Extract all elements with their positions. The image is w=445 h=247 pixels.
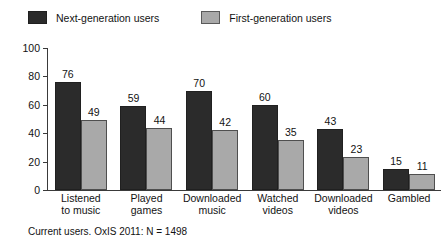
- x-axis-labels: Listenedto musicPlayedgamesDownloadedmus…: [48, 193, 442, 216]
- legend-item-first-generation-users: First-generation users: [201, 11, 331, 24]
- bar-groups: 764959447042603543231511: [48, 48, 441, 190]
- x-axis-label-line: videos: [245, 205, 311, 217]
- x-axis-label-line: to music: [48, 205, 114, 217]
- bar-value-label: 49: [88, 106, 100, 118]
- y-axis-tick: [43, 48, 47, 49]
- y-axis-tick-label: 0: [34, 184, 40, 196]
- x-axis-line: [47, 190, 441, 191]
- bar-group: 1511: [376, 48, 442, 190]
- bar-value-label: 35: [285, 126, 297, 138]
- plot-area: 020406080100 764959447042603543231511: [47, 48, 441, 190]
- chart-footnote: Current users. OxIS 2011: N = 1498: [28, 226, 187, 237]
- y-axis-tick-label: 20: [28, 156, 40, 168]
- bar: 43: [317, 129, 343, 190]
- x-axis-label: Watchedvideos: [245, 193, 311, 216]
- bar-value-label: 59: [128, 92, 140, 104]
- y-axis-tick: [43, 105, 47, 106]
- light-swatch-icon: [201, 11, 220, 24]
- x-axis-label-line: music: [179, 205, 245, 217]
- bar: 70: [186, 91, 212, 190]
- legend-label: Next-generation users: [56, 12, 159, 24]
- bar-value-label: 42: [219, 116, 231, 128]
- bar-chart: Next-generation users First-generation u…: [0, 0, 445, 247]
- y-axis-tick: [43, 162, 47, 163]
- x-axis-label-line: Downloaded: [179, 193, 245, 205]
- x-axis-label-line: Watched: [245, 193, 311, 205]
- y-axis-tick: [43, 133, 47, 134]
- x-axis-label: Listenedto music: [48, 193, 114, 216]
- bar: 23: [343, 157, 369, 190]
- bar-value-label: 11: [417, 160, 428, 172]
- y-axis-tick-label: 60: [28, 99, 40, 111]
- legend-label: First-generation users: [229, 12, 331, 24]
- y-axis-tick-label: 100: [22, 42, 40, 54]
- chart-legend: Next-generation users First-generation u…: [28, 11, 331, 24]
- bar-value-label: 76: [62, 68, 74, 80]
- x-axis-label-line: Played: [114, 193, 180, 205]
- bar-group: 6035: [245, 48, 311, 190]
- bar: 44: [146, 128, 172, 190]
- y-axis-tick-label: 40: [28, 127, 40, 139]
- bar-value-label: 43: [325, 115, 337, 127]
- bar-value-label: 60: [259, 91, 271, 103]
- y-axis-tick: [43, 76, 47, 77]
- bar-group: 5944: [114, 48, 180, 190]
- legend-item-next-generation-users: Next-generation users: [28, 11, 159, 24]
- x-axis-label: Gambled: [376, 193, 442, 216]
- y-axis-tick: [43, 190, 47, 191]
- bar: 15: [383, 169, 409, 190]
- x-axis-label: Downloadedvideos: [311, 193, 377, 216]
- bar: 76: [55, 82, 81, 190]
- bar: 11: [409, 174, 435, 190]
- bar: 60: [252, 105, 278, 190]
- x-axis-label-line: Downloaded: [311, 193, 377, 205]
- dark-swatch-icon: [28, 11, 47, 24]
- bar-group: 7042: [179, 48, 245, 190]
- y-axis-tick-label: 80: [28, 70, 40, 82]
- bar-value-label: 15: [390, 155, 402, 167]
- bar-value-label: 23: [351, 143, 363, 155]
- bar: 42: [212, 130, 238, 190]
- bar: 49: [81, 120, 107, 190]
- x-axis-label-line: Gambled: [376, 193, 442, 205]
- x-axis-label-line: games: [114, 205, 180, 217]
- bar-value-label: 44: [154, 114, 166, 126]
- bar-group: 7649: [48, 48, 114, 190]
- bar-value-label: 70: [193, 77, 205, 89]
- x-axis-label: Playedgames: [114, 193, 180, 216]
- x-axis-label-line: videos: [311, 205, 377, 217]
- x-axis-label-line: Listened: [48, 193, 114, 205]
- bar: 35: [278, 140, 304, 190]
- x-axis-label: Downloadedmusic: [179, 193, 245, 216]
- bar-group: 4323: [311, 48, 377, 190]
- bar: 59: [120, 106, 146, 190]
